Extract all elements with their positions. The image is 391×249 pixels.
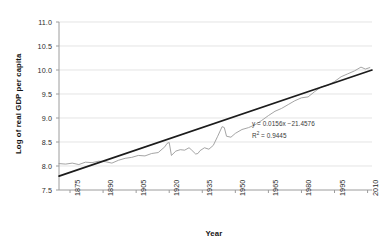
x-axis-title: Year [206,229,223,238]
gridlines [59,22,372,166]
axis-ticks [56,22,368,193]
x-tick-label: 2010 [371,180,380,196]
x-tick-label: 1995 [338,180,347,196]
chart-plot-area [0,0,391,249]
x-tick-label: 1935 [205,180,214,196]
gdp-per-capita-chart: 11.010.510.09.59.08.58.07.5 187518901905… [0,0,391,249]
y-tick-label: 10.5 [26,42,52,51]
y-tick-label: 9.5 [26,90,52,99]
y-tick-label: 11.0 [26,18,52,27]
y-axis-title: Log of real GDP per capita [14,54,23,154]
trend-equation-annotation: y = 0.0156x −21.4576 [252,120,315,127]
x-tick-label: 1950 [238,180,247,196]
x-tick-label: 1965 [271,180,280,196]
x-tick-label: 1875 [73,180,82,196]
x-tick-label: 1905 [139,180,148,196]
x-tick-label: 1980 [304,180,313,196]
y-tick-label: 9.0 [26,114,52,123]
y-tick-label: 8.0 [26,162,52,171]
r-squared-value: = 0.9445 [259,132,286,139]
y-tick-label: 8.5 [26,138,52,147]
trend-line [59,70,372,176]
y-tick-label: 7.5 [26,186,52,195]
data-series-line [59,67,370,164]
x-tick-label: 1890 [106,180,115,196]
r-squared-annotation: R2 = 0.9445 [252,131,287,139]
y-tick-label: 10.0 [26,66,52,75]
axis-lines [59,22,372,190]
x-tick-label: 1920 [172,180,181,196]
